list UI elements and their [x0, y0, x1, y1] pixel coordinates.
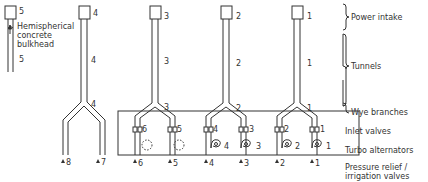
tunnel-3-number: 3	[164, 58, 169, 66]
bulkhead-annotation-line2: concrete	[17, 31, 52, 40]
legend-power-intake: Power intake	[351, 13, 402, 22]
wye-2-number: 2	[236, 105, 241, 113]
intake-2	[204, 6, 250, 155]
tunnel-1-number: 1	[307, 60, 312, 68]
intake-4-number: 4	[93, 10, 98, 18]
relief-5-number: 5	[173, 160, 178, 168]
relief-6-number: 6	[138, 160, 143, 168]
intake-2-number: 2	[236, 13, 241, 21]
wye-1-number: 1	[307, 105, 312, 113]
legend-braces	[343, 4, 349, 113]
legend-turbo-alternators: Turbo alternators	[345, 146, 413, 155]
intake-5	[5, 6, 16, 72]
relief-2-number: 2	[280, 160, 285, 168]
valve-5-number: 5	[177, 126, 182, 134]
turbine-3-number: 3	[256, 143, 261, 151]
turbine-1-number: 1	[326, 143, 331, 151]
relief-3-number: 3	[244, 160, 249, 168]
relief-8-number: 8	[66, 159, 71, 167]
valve-3-number: 3	[249, 126, 254, 134]
valve-2-number: 2	[284, 126, 289, 134]
relief-7-number: 7	[101, 159, 106, 167]
intake-1-number: 1	[307, 13, 312, 21]
relief-1-number: 1	[315, 160, 320, 168]
relief-4-number: 4	[209, 160, 214, 168]
legend-pressure-relief-line1: Pressure relief /	[345, 163, 407, 172]
tunnel-4-number: 4	[91, 57, 96, 65]
bulkhead-annotation-line1: Hemispherical	[17, 22, 74, 31]
turbine-2-number: 2	[295, 143, 300, 151]
intake-5-number: 5	[19, 8, 24, 16]
intake-3-number: 3	[164, 13, 169, 21]
tunnel-5-number: 5	[19, 56, 24, 64]
legend-inlet-valves: Inlet valves	[345, 127, 391, 136]
tunnel-2-number: 2	[236, 60, 241, 68]
intake-1	[275, 6, 321, 155]
valve-1-number: 1	[320, 126, 325, 134]
legend-pressure-relief-line2: irrigation valves	[345, 172, 409, 181]
valve-4-number: 4	[213, 126, 218, 134]
turbine-4-number: 4	[224, 143, 229, 151]
valve-6-number: 6	[142, 126, 147, 134]
relief-valve-markers	[61, 159, 314, 163]
wye-4-number: 4	[91, 101, 96, 109]
legend-wye-branches: Wye branches	[351, 108, 408, 117]
legend-tunnels: Tunnels	[351, 62, 381, 71]
bulkhead-annotation-line3: bulkhead	[17, 40, 54, 49]
wye-3-number: 3	[164, 104, 169, 112]
